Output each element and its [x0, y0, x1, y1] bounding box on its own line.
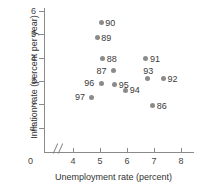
data-point-label: 90 — [105, 19, 115, 28]
y-tick-mark — [39, 128, 44, 129]
x-tick-label: 6 — [119, 157, 135, 166]
x-tick-mark — [154, 148, 155, 152]
origin-label: 0 — [28, 157, 33, 166]
x-tick-label: 5 — [92, 157, 108, 166]
y-tick-mark — [39, 81, 44, 82]
data-point-label: 92 — [167, 75, 177, 84]
y-tick-mark — [39, 58, 44, 59]
data-point-label: 94 — [130, 86, 140, 95]
data-point-label: 89 — [101, 34, 111, 43]
data-point-dot — [89, 95, 94, 100]
data-point-dot — [95, 35, 100, 40]
y-axis-line — [44, 8, 45, 153]
data-point-label: 86 — [157, 102, 167, 111]
x-tick-label: 7 — [146, 157, 162, 166]
y-tick-mark — [39, 11, 44, 12]
data-point-dot — [100, 56, 105, 61]
x-axis-title: Unemployment rate (percent) — [30, 172, 197, 182]
x-tick-mark — [73, 148, 74, 152]
data-point-dot — [150, 103, 155, 108]
data-point-dot — [112, 82, 117, 87]
data-point-label: 93 — [143, 67, 153, 76]
data-point-dot — [145, 76, 150, 81]
data-point-dot — [99, 20, 104, 25]
data-point-dot — [123, 88, 128, 93]
data-point-dot — [143, 56, 148, 61]
x-axis-break-icon — [52, 142, 66, 156]
x-tick-mark — [100, 148, 101, 152]
y-tick-mark — [39, 104, 44, 105]
data-point-label: 87 — [97, 67, 107, 76]
y-axis-title: Inflation rate (percent per year) — [29, 0, 39, 157]
x-tick-mark — [181, 148, 182, 152]
data-point-dot — [161, 76, 166, 81]
data-point-dot — [111, 68, 116, 73]
data-point-label: 88 — [107, 55, 117, 64]
x-tick-mark — [127, 148, 128, 152]
y-tick-mark — [39, 34, 44, 35]
data-point-label: 97 — [75, 93, 85, 102]
x-tick-label: 4 — [65, 157, 81, 166]
scatter-chart: 123456 45678 0 Inflation rate (percent p… — [0, 0, 197, 191]
x-tick-label: 8 — [173, 157, 189, 166]
data-point-dot — [99, 81, 104, 86]
data-point-label: 96 — [84, 79, 94, 88]
x-axis-line — [44, 152, 194, 153]
data-point-label: 91 — [150, 55, 160, 64]
